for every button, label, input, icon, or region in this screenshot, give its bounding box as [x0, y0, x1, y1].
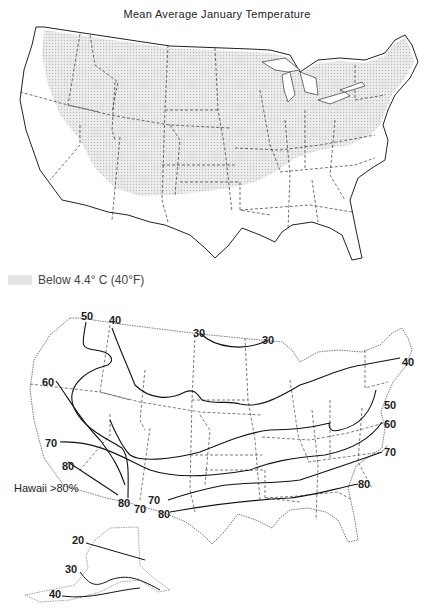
alaska-isoline-label: 40: [49, 588, 61, 600]
isoline-label: 80: [118, 497, 130, 509]
us-outline-bottom: [30, 318, 412, 544]
bottom-us-map: [0, 0, 434, 616]
isoline-label: 70: [45, 437, 57, 449]
isoline-label: 60: [42, 376, 54, 388]
alaska-isoline-label: 20: [72, 534, 84, 546]
isoline-label: 50: [81, 310, 93, 322]
isoline-label: 50: [384, 399, 396, 411]
isoline-label: 80: [358, 478, 370, 490]
isoline-label: 70: [134, 503, 146, 515]
alaska-outline: [25, 527, 170, 602]
isoline-label: 70: [384, 446, 396, 458]
isoline-label: 40: [402, 356, 414, 368]
isoline-label: 30: [262, 334, 274, 346]
isoline-label: 30: [193, 327, 205, 339]
isoline-label: 60: [384, 418, 396, 430]
hawaii-note: Hawaii >80%: [14, 482, 79, 494]
isoline-label: 40: [109, 314, 121, 326]
alaska-isoline-label: 30: [65, 563, 77, 575]
isoline-label: 80: [158, 508, 170, 520]
isoline-label: 80: [62, 460, 74, 472]
isoline-label: 70: [148, 494, 160, 506]
